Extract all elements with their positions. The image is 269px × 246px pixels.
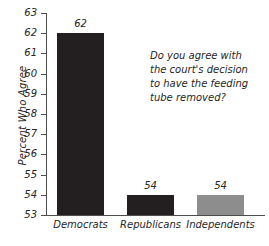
bar-value-label: 54	[127, 181, 174, 191]
y-tick-mark	[41, 94, 46, 95]
bar-value-label: 54	[197, 181, 244, 191]
bar-value-label: 62	[57, 19, 104, 29]
y-axis-line	[46, 13, 47, 216]
x-category-label: Democrats	[44, 219, 117, 230]
y-tick-label: 56	[21, 149, 37, 159]
y-tick-mark	[41, 53, 46, 54]
y-tick-mark	[41, 74, 46, 75]
annotation-line: the court's decision	[150, 63, 266, 77]
y-tick-label: 63	[21, 8, 37, 18]
y-tick-label: 58	[21, 109, 37, 119]
y-tick-mark	[41, 13, 46, 14]
survey-question-annotation: Do you agree with the court's decision t…	[150, 49, 266, 105]
y-tick-label: 59	[21, 89, 37, 99]
y-tick-label: 55	[21, 170, 37, 180]
annotation-line: Do you agree with	[150, 49, 266, 63]
y-tick-mark	[41, 195, 46, 196]
y-tick-mark	[41, 114, 46, 115]
y-tick-label: 62	[21, 28, 37, 38]
y-tick-label: 57	[21, 129, 37, 139]
x-axis-line	[46, 215, 265, 216]
x-category-label: Republicans	[114, 219, 187, 230]
bar-democrats: 62	[57, 33, 104, 215]
y-tick-mark	[41, 134, 46, 135]
y-tick-label: 60	[21, 69, 37, 79]
y-tick-mark	[41, 33, 46, 34]
y-tick-mark	[41, 175, 46, 176]
annotation-line: tube removed?	[150, 91, 266, 105]
y-tick-label: 61	[21, 48, 37, 58]
x-category-label: Independents	[184, 219, 257, 230]
annotation-line: to have the feeding	[150, 77, 266, 91]
bar-republicans: 54	[127, 195, 174, 215]
bar-independents: 54	[197, 195, 244, 215]
bar-chart: Percent Who Agree 6362616059585756555453…	[0, 0, 269, 246]
y-tick-label: 53	[21, 210, 37, 220]
y-tick-mark	[41, 154, 46, 155]
y-tick-label: 54	[21, 190, 37, 200]
y-tick-mark	[41, 215, 46, 216]
